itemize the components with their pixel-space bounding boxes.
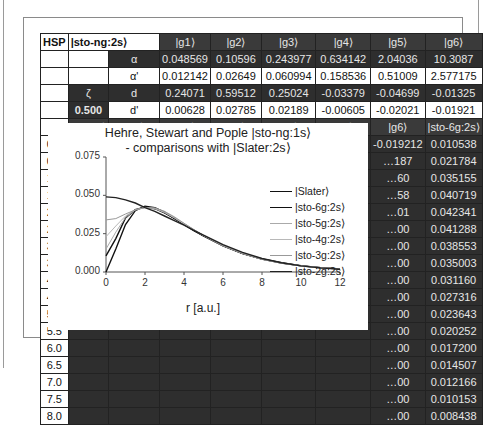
data-cell[interactable]: 0.023643 bbox=[425, 306, 482, 323]
param-value-cell[interactable]: 10.3087 bbox=[425, 51, 482, 68]
column-header-cell[interactable]: |g6⟩ bbox=[370, 119, 425, 136]
hsp-cell[interactable]: HSP bbox=[41, 34, 69, 51]
data-cell[interactable] bbox=[160, 408, 211, 425]
data-cell[interactable]: 0.010153 bbox=[425, 391, 482, 408]
param-label-cell[interactable]: d' bbox=[109, 102, 160, 119]
chart-overlay[interactable]: Hehre, Stewart and Pople |sto-ng:1s⟩ - c… bbox=[48, 123, 368, 330]
r-cell[interactable]: 6.5 bbox=[41, 357, 69, 374]
data-cell[interactable]: 0.035155 bbox=[425, 170, 482, 187]
data-cell[interactable]: 0.021784 bbox=[425, 153, 482, 170]
data-cell[interactable]: …58 bbox=[370, 187, 425, 204]
data-cell[interactable]: 0.040719 bbox=[425, 187, 482, 204]
blank-cell[interactable] bbox=[41, 51, 69, 68]
param-label-cell[interactable]: d bbox=[109, 85, 160, 102]
data-cell[interactable]: …00 bbox=[370, 340, 425, 357]
data-cell[interactable]: 0.042341 bbox=[425, 204, 482, 221]
param-value-cell[interactable]: 0.00628 bbox=[160, 102, 211, 119]
data-cell[interactable]: 0.027316 bbox=[425, 289, 482, 306]
data-cell[interactable] bbox=[316, 408, 371, 425]
data-cell[interactable] bbox=[316, 340, 371, 357]
data-cell[interactable]: 0.012166 bbox=[425, 374, 482, 391]
data-cell[interactable]: 0.020252 bbox=[425, 323, 482, 340]
data-cell[interactable]: 0.041288 bbox=[425, 221, 482, 238]
blank-cell[interactable] bbox=[41, 85, 69, 102]
data-cell[interactable] bbox=[109, 408, 160, 425]
g-header-cell[interactable]: |g4⟩ bbox=[316, 34, 371, 51]
data-cell[interactable] bbox=[68, 374, 109, 391]
data-cell[interactable] bbox=[68, 391, 109, 408]
data-cell[interactable] bbox=[211, 391, 262, 408]
data-cell[interactable]: …00 bbox=[370, 255, 425, 272]
g-header-cell[interactable]: |g6⟩ bbox=[425, 34, 482, 51]
param-value-cell[interactable]: 0.060994 bbox=[261, 68, 316, 85]
param-label-cell[interactable]: α bbox=[109, 51, 160, 68]
g-header-cell[interactable]: |g1⟩ bbox=[160, 34, 211, 51]
data-cell[interactable]: …00 bbox=[370, 289, 425, 306]
param-value-cell[interactable]: 2.577175 bbox=[425, 68, 482, 85]
data-cell[interactable] bbox=[261, 391, 316, 408]
data-cell[interactable] bbox=[261, 408, 316, 425]
param-value-cell[interactable]: 0.25024 bbox=[261, 85, 316, 102]
data-cell[interactable] bbox=[68, 357, 109, 374]
param-value-cell[interactable]: -0.01921 bbox=[425, 102, 482, 119]
data-cell[interactable]: …00 bbox=[370, 221, 425, 238]
r-cell[interactable]: 7.0 bbox=[41, 374, 69, 391]
param-value-cell[interactable]: -0.01325 bbox=[425, 85, 482, 102]
param-value-cell[interactable]: 2.04036 bbox=[370, 51, 425, 68]
blank-cell[interactable] bbox=[68, 51, 109, 68]
data-cell[interactable]: 0.017200 bbox=[425, 340, 482, 357]
data-cell[interactable] bbox=[109, 340, 160, 357]
blank-cell[interactable] bbox=[41, 68, 69, 85]
param-value-cell[interactable]: 0.02649 bbox=[211, 68, 262, 85]
param-value-cell[interactable]: 0.048569 bbox=[160, 51, 211, 68]
zeta-value-cell[interactable]: 0.500 bbox=[68, 102, 109, 119]
data-cell[interactable] bbox=[160, 340, 211, 357]
param-value-cell[interactable]: 0.243977 bbox=[261, 51, 316, 68]
param-value-cell[interactable]: 0.51009 bbox=[370, 68, 425, 85]
zeta-label-cell[interactable]: ζ bbox=[68, 85, 109, 102]
param-label-cell[interactable]: α' bbox=[109, 68, 160, 85]
data-cell[interactable] bbox=[109, 374, 160, 391]
data-cell[interactable]: …187 bbox=[370, 153, 425, 170]
data-cell[interactable]: …00 bbox=[370, 272, 425, 289]
param-value-cell[interactable]: 0.158536 bbox=[316, 68, 371, 85]
data-cell[interactable]: …00 bbox=[370, 391, 425, 408]
param-value-cell[interactable]: 0.10596 bbox=[211, 51, 262, 68]
data-cell[interactable]: 0.014507 bbox=[425, 357, 482, 374]
data-cell[interactable]: …00 bbox=[370, 306, 425, 323]
param-value-cell[interactable]: 0.02785 bbox=[211, 102, 262, 119]
param-value-cell[interactable]: 0.59512 bbox=[211, 85, 262, 102]
data-cell[interactable] bbox=[68, 408, 109, 425]
data-cell[interactable] bbox=[160, 374, 211, 391]
data-cell[interactable]: …00 bbox=[370, 357, 425, 374]
data-cell[interactable] bbox=[211, 357, 262, 374]
basis-cell[interactable]: |sto-ng:2s⟩ bbox=[68, 34, 159, 51]
data-cell[interactable] bbox=[160, 357, 211, 374]
data-cell[interactable]: …00 bbox=[370, 238, 425, 255]
data-cell[interactable] bbox=[109, 357, 160, 374]
data-cell[interactable] bbox=[211, 374, 262, 391]
data-cell[interactable]: 0.008438 bbox=[425, 408, 482, 425]
param-value-cell[interactable]: -0.02021 bbox=[370, 102, 425, 119]
data-cell[interactable]: …00 bbox=[370, 374, 425, 391]
param-value-cell[interactable]: 0.634142 bbox=[316, 51, 371, 68]
data-cell[interactable]: …01 bbox=[370, 204, 425, 221]
data-cell[interactable]: …60 bbox=[370, 170, 425, 187]
g-header-cell[interactable]: |g2⟩ bbox=[211, 34, 262, 51]
param-value-cell[interactable]: 0.02189 bbox=[261, 102, 316, 119]
data-cell[interactable]: -0.019212 bbox=[370, 136, 425, 153]
data-cell[interactable] bbox=[109, 391, 160, 408]
data-cell[interactable] bbox=[160, 391, 211, 408]
blank-cell[interactable] bbox=[68, 68, 109, 85]
data-cell[interactable]: 0.010538 bbox=[425, 136, 482, 153]
r-cell[interactable]: 8.0 bbox=[41, 408, 69, 425]
column-header-cell[interactable]: |sto-6g:2s⟩ bbox=[425, 119, 482, 136]
r-cell[interactable]: 7.5 bbox=[41, 391, 69, 408]
data-cell[interactable] bbox=[261, 374, 316, 391]
param-value-cell[interactable]: 0.012142 bbox=[160, 68, 211, 85]
blank-cell[interactable] bbox=[41, 102, 69, 119]
data-cell[interactable] bbox=[211, 340, 262, 357]
data-cell[interactable] bbox=[68, 340, 109, 357]
data-cell[interactable] bbox=[316, 374, 371, 391]
param-value-cell[interactable]: -0.04699 bbox=[370, 85, 425, 102]
